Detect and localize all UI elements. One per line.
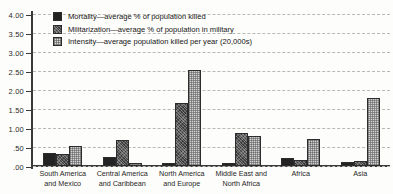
bar-mortality	[281, 158, 294, 166]
category-label-line: and Caribbean	[94, 179, 152, 189]
x-axis-categories: South Americaand MexicoCentral Americaan…	[33, 169, 390, 188]
bar-intensity	[248, 136, 261, 166]
bar-militarization	[354, 161, 367, 166]
category-label-line: North Africa	[213, 179, 271, 189]
category-label-line: Middle East and	[213, 169, 271, 179]
category-label-line: Asia	[332, 169, 390, 179]
bar-intensity	[188, 70, 201, 166]
y-axis-tick	[26, 53, 32, 54]
chart-legend: Mortality—average % of population killed…	[53, 12, 252, 46]
bar-intensity	[307, 139, 320, 166]
bar-intensity	[69, 146, 82, 166]
y-axis-tick	[26, 72, 32, 73]
legend-item-mortality: Mortality—average % of population killed	[53, 12, 252, 21]
category-label-line: South America	[34, 169, 92, 179]
bar-mortality	[103, 157, 116, 167]
bar-mortality	[222, 163, 235, 166]
bar-militarization	[56, 154, 69, 166]
legend-swatch-mortality	[53, 12, 62, 21]
category-label-line: Africa	[272, 169, 330, 179]
y-axis-tick-label: .50	[13, 144, 24, 153]
y-axis-tick	[26, 34, 32, 35]
bar-militarization	[175, 103, 188, 166]
y-axis-tick-label: 2.50	[9, 68, 24, 77]
legend-label-intensity: Intensity—average population killed per …	[68, 37, 252, 46]
y-axis-tick	[26, 129, 32, 130]
bar-group	[331, 14, 391, 166]
y-axis-tick-label: .00	[13, 163, 24, 172]
category-label-line: and Mexico	[34, 179, 92, 189]
category-label: Asia	[331, 169, 391, 188]
y-axis-tick	[26, 167, 32, 168]
category-label: Africa	[271, 169, 331, 188]
y-axis-tick-label: 2.00	[9, 87, 24, 96]
bar-group	[271, 14, 331, 166]
bar-intensity	[367, 98, 380, 166]
category-label: Middle East andNorth Africa	[212, 169, 272, 188]
bar-militarization	[235, 133, 248, 166]
legend-swatch-intensity	[53, 37, 62, 46]
bar-mortality	[341, 162, 354, 166]
y-axis-tick-label: 1.50	[9, 106, 24, 115]
bar-militarization	[294, 160, 307, 166]
bar-mortality	[43, 153, 56, 166]
y-axis-tick-label: 3.00	[9, 49, 24, 58]
category-label: Central Americaand Caribbean	[93, 169, 153, 188]
category-label-line: and Europe	[153, 179, 211, 189]
category-label-line: Central America	[94, 169, 152, 179]
bar-mortality	[162, 163, 175, 166]
y-axis-tick	[26, 91, 32, 92]
category-label: South Americaand Mexico	[33, 169, 93, 188]
gridline: .00	[33, 166, 390, 167]
legend-label-militarization: Militarization—average % of population i…	[68, 25, 234, 34]
legend-swatch-militarization	[53, 25, 62, 34]
category-label-line: North America	[153, 169, 211, 179]
y-axis-tick-label: 3.50	[9, 30, 24, 39]
y-axis-tick	[26, 110, 32, 111]
y-axis-tick	[26, 148, 32, 149]
bar-intensity	[129, 163, 142, 166]
bar-chart: 4.003.503.002.502.001.501.00.50.00 Morta…	[0, 0, 393, 194]
category-label: North Americaand Europe	[152, 169, 212, 188]
y-axis-tick-label: 4.00	[9, 11, 24, 20]
legend-item-militarization: Militarization—average % of population i…	[53, 25, 252, 34]
bar-militarization	[116, 140, 129, 166]
legend-item-intensity: Intensity—average population killed per …	[53, 37, 252, 46]
legend-label-mortality: Mortality—average % of population killed	[68, 12, 206, 21]
y-axis-tick-label: 1.00	[9, 125, 24, 134]
y-axis-tick	[26, 15, 32, 16]
